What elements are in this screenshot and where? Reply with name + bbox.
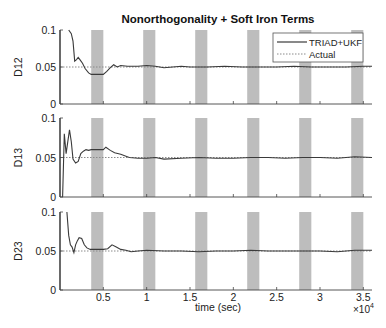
y-tick-label: 0: [50, 191, 56, 203]
x-tick-label: 3.5: [356, 291, 371, 303]
y-tick-label: 0.1: [41, 24, 56, 36]
y-axis-label: D13: [12, 148, 24, 167]
chart-title: Nonorthogonality + Soft Iron Terms: [121, 13, 314, 25]
y-tick-label: 0.1: [41, 112, 56, 124]
subplot-d23: 00.050.1D23: [12, 206, 372, 296]
subplot-d13: 00.050.1D13: [12, 112, 372, 203]
legend-label-estimate: TRIAD+UKF: [309, 37, 362, 48]
legend: TRIAD+UKF Actual: [273, 33, 363, 62]
x-tick-label: 3: [317, 291, 323, 303]
x-axis-multiplier: ×104: [353, 302, 374, 315]
y-axis-label: D12: [12, 57, 24, 76]
x-tick-label: 2.5: [269, 291, 284, 303]
y-axis-label: D23: [12, 241, 24, 260]
x-tick-label: 0.5: [96, 291, 111, 303]
y-tick-label: 0.1: [41, 206, 56, 218]
chart-figure: Nonorthogonality + Soft Iron Terms 00.05…: [0, 0, 386, 328]
y-tick-label: 0: [50, 284, 56, 296]
y-tick-label: 0.05: [36, 152, 57, 164]
subplot-panels: 00.050.1D1200.050.1D1300.050.1D23: [12, 24, 372, 296]
y-tick-label: 0.05: [36, 61, 57, 73]
x-tick-label: 1: [144, 291, 150, 303]
x-axis-label: time (sec): [195, 301, 241, 313]
legend-label-actual: Actual: [309, 49, 335, 60]
estimate-line: [63, 130, 372, 197]
y-tick-label: 0.05: [36, 245, 57, 257]
estimate-line: [67, 212, 372, 253]
y-tick-label: 0: [50, 98, 56, 110]
